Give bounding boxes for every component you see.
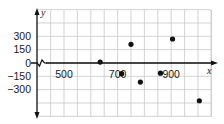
y-tick-label: −150 — [7, 70, 31, 82]
data-point — [98, 60, 103, 65]
data-point — [128, 42, 133, 47]
y-axis-arrow-up-icon — [35, 8, 40, 15]
y-tick-label: −300 — [7, 83, 31, 95]
scatter-chart: 3001500−150−300 500700900 y x — [0, 0, 224, 124]
y-axis-label: y — [40, 7, 46, 18]
axes — [31, 8, 218, 119]
data-point — [197, 98, 202, 103]
axis-break-icon — [37, 58, 47, 68]
y-tick-label: 150 — [13, 43, 31, 55]
y-tick-label: 0 — [25, 57, 31, 69]
y-axis-arrow-down-icon — [35, 112, 40, 119]
data-point — [170, 36, 175, 41]
y-tick-label: 300 — [13, 30, 31, 42]
x-axis-label: x — [206, 65, 212, 76]
x-tick-label: 500 — [55, 68, 73, 80]
y-tick-labels: 3001500−150−300 — [7, 30, 31, 95]
x-tick-label: 900 — [162, 68, 180, 80]
data-point — [158, 71, 163, 76]
data-point — [138, 80, 143, 85]
data-point — [119, 71, 124, 76]
x-axis-arrow-icon — [211, 61, 218, 66]
